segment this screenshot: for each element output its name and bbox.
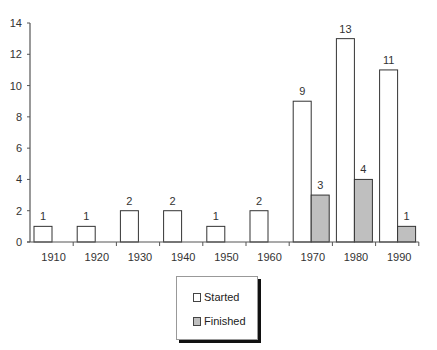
legend-item-started: Started [193, 291, 239, 303]
x-tick-label: 1970 [301, 251, 325, 263]
y-tick-label: 10 [10, 80, 22, 92]
x-tick-label: 1930 [128, 251, 152, 263]
data-label: 3 [317, 179, 323, 191]
y-tick-label: 0 [16, 236, 22, 248]
data-label: 2 [126, 195, 132, 207]
bar-started [77, 226, 95, 242]
data-label: 1 [404, 210, 410, 222]
y-tick-label: 2 [16, 205, 22, 217]
x-tick-label: 1980 [344, 251, 368, 263]
bar-finished [398, 226, 416, 242]
bar-finished [311, 195, 329, 242]
bars-group: 11221293134111 [34, 23, 416, 242]
data-label: 2 [256, 195, 262, 207]
data-label: 13 [339, 23, 351, 35]
data-label: 1 [40, 210, 46, 222]
y-tick-label: 14 [10, 17, 22, 29]
bar-started [250, 211, 268, 242]
bar-started [380, 70, 398, 242]
data-label: 1 [213, 210, 219, 222]
bar-started [164, 211, 182, 242]
bar-started [207, 226, 225, 242]
y-tick-label: 12 [10, 48, 22, 60]
bar-finished [354, 179, 372, 242]
bar-started [120, 211, 138, 242]
legend-swatch-finished [193, 317, 201, 326]
x-tick-label: 1960 [257, 251, 281, 263]
data-label: 11 [383, 54, 394, 66]
x-tick-label: 1940 [171, 251, 195, 263]
bar-started [293, 101, 311, 242]
data-label: 4 [360, 163, 366, 175]
data-label: 1 [83, 210, 89, 222]
bar-started [34, 226, 52, 242]
legend-label-started: Started [204, 291, 239, 303]
x-tick-label: 1910 [41, 251, 65, 263]
data-label: 9 [299, 85, 305, 97]
x-tick-label: 1950 [214, 251, 238, 263]
y-tick-label: 4 [16, 173, 22, 185]
x-tick-label: 1920 [85, 251, 109, 263]
legend-label-finished: Finished [204, 315, 246, 327]
bar-started [336, 39, 354, 242]
legend-swatch-started [193, 293, 201, 302]
data-label: 2 [170, 195, 176, 207]
y-tick-label: 6 [16, 142, 22, 154]
chart-legend: Started Finished [176, 276, 258, 340]
x-tick-label: 1990 [387, 251, 411, 263]
y-tick-label: 8 [16, 111, 22, 123]
legend-item-finished: Finished [193, 315, 246, 327]
